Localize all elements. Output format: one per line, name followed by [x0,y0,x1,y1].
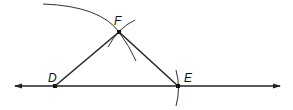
diagram-svg: D E F [0,0,293,110]
segment-fe [119,32,178,86]
construction-diagram: D E F [0,0,293,110]
label-f: F [114,14,122,28]
label-d: D [48,71,57,85]
segment-df [55,32,119,86]
label-e: E [184,71,193,85]
large-arc [43,4,136,61]
point-e [176,84,180,88]
point-f [117,30,121,34]
